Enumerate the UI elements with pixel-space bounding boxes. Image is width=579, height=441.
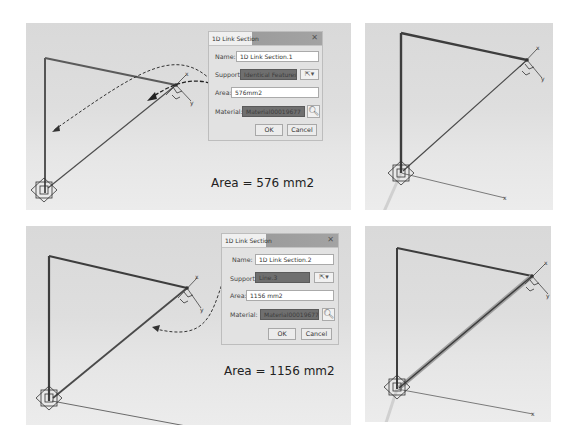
material-field[interactable]: Material00019677 [260, 309, 319, 320]
name-label: Name: [215, 53, 236, 60]
dialog-titlebar[interactable]: 1D Link Section ✕ [209, 32, 322, 46]
dialog-title: 1D Link Section [225, 237, 272, 244]
support-selector-button[interactable]: ⇱▾ [300, 69, 319, 80]
chevron-down-icon: ▾ [311, 70, 315, 78]
support-field[interactable]: Line.3 [255, 272, 310, 283]
viewport-top-left[interactable]: x y 1D Link Section ✕ Name: 1D Link Sect… [26, 23, 351, 210]
viewport-top-right[interactable]: x x y [365, 23, 553, 210]
material-search-button[interactable]: 🔍︎ [322, 308, 335, 321]
dialog-titlebar[interactable]: 1D Link Section ✕ [222, 234, 338, 248]
svg-text:x: x [531, 410, 535, 417]
support-label: Support: [215, 71, 242, 78]
support-label: Support: [230, 275, 257, 282]
area-input[interactable]: 576mm2 [231, 87, 319, 98]
area-caption: Area = 576 mm2 [211, 176, 314, 190]
cancel-button[interactable]: Cancel [287, 124, 317, 136]
name-input[interactable]: 1D Link Section.1 [236, 51, 319, 62]
svg-text:x: x [503, 194, 507, 201]
svg-text:y: y [190, 99, 194, 107]
area-label: Area: [215, 89, 232, 96]
name-input[interactable]: 1D Link Section.2 [255, 254, 334, 265]
frame-model-top-right: x x y [365, 23, 553, 210]
chevron-down-icon: ▾ [325, 273, 329, 281]
search-icon: 🔍︎ [308, 106, 319, 116]
svg-text:x: x [536, 44, 540, 51]
support-selector-button[interactable]: ⇱▾ [314, 272, 334, 283]
dialog-title: 1D Link Section [212, 35, 259, 42]
support-field[interactable]: Identical Features [240, 69, 297, 80]
cancel-button[interactable]: Cancel [301, 328, 332, 340]
area-label: Area: [230, 292, 247, 299]
area-caption: Area = 1156 mm2 [224, 364, 335, 378]
svg-text:y: y [200, 306, 204, 314]
search-icon: 🔍︎ [323, 309, 334, 319]
material-field[interactable]: Material00019677 [242, 106, 305, 117]
svg-text:y: y [546, 292, 550, 300]
axis-x-label: x [185, 70, 189, 77]
link-section-dialog: 1D Link Section ✕ Name: 1D Link Section.… [221, 233, 339, 345]
viewport-bottom-right[interactable]: x x y [365, 226, 551, 422]
close-icon[interactable]: ✕ [311, 33, 318, 42]
link-section-dialog: 1D Link Section ✕ Name: 1D Link Section.… [208, 31, 323, 141]
svg-text:y: y [541, 75, 545, 83]
name-label: Name: [232, 256, 253, 263]
material-search-button[interactable]: 🔍︎ [307, 105, 320, 118]
material-label: Material: [230, 311, 258, 318]
material-label: Material: [215, 108, 243, 115]
svg-text:x: x [544, 259, 548, 266]
frame-model-bottom-right: x x y [365, 226, 551, 422]
svg-text:x: x [195, 273, 199, 280]
area-input[interactable]: 1156 mm2 [246, 290, 334, 301]
close-icon[interactable]: ✕ [327, 235, 334, 244]
viewport-bottom-left[interactable]: x y 1D Link Section ✕ Name: 1D Link Sect… [26, 226, 351, 425]
ok-button[interactable]: OK [268, 328, 296, 340]
ok-button[interactable]: OK [255, 124, 283, 136]
